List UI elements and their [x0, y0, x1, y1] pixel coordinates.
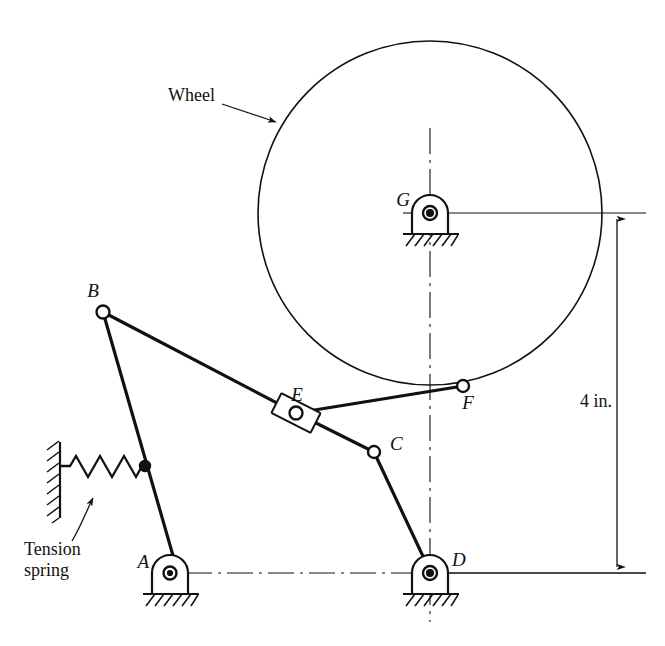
point-label-G: G [396, 189, 410, 210]
joint-E [290, 407, 303, 420]
dimension-label: 4 in. [580, 391, 612, 411]
link-C-D [374, 452, 428, 567]
hatching-wall [47, 441, 59, 523]
wheel-leader-line [222, 104, 276, 122]
hatching-D [406, 594, 458, 606]
point-label-F: F [461, 392, 474, 413]
joint-B [97, 306, 110, 319]
hatching-G [406, 234, 458, 246]
joint-F [457, 380, 469, 392]
support-A [143, 555, 199, 606]
spring-wall [47, 441, 60, 523]
mechanism-figure: 4 in. A [0, 0, 665, 646]
link-B-A [103, 312, 176, 566]
hatching-A [146, 594, 198, 606]
link-B-E [103, 312, 296, 413]
tension-spring-coil [60, 456, 145, 477]
tension-label: Tension [24, 539, 81, 559]
wheel-label: Wheel [168, 85, 215, 105]
link-E-F [296, 386, 463, 413]
point-label-D: D [451, 549, 466, 570]
support-D [403, 555, 646, 606]
point-label-C: C [390, 433, 403, 454]
joint-C [368, 446, 380, 458]
support-G [403, 195, 459, 246]
point-label-E: E [290, 384, 303, 405]
point-label-A: A [135, 551, 149, 572]
spring-attachment-point [140, 461, 151, 472]
point-label-B: B [87, 280, 99, 301]
spring-label: spring [24, 560, 69, 580]
mechanism-drawing: 4 in. A [0, 0, 665, 646]
tension-spring-leader-line [72, 498, 93, 541]
